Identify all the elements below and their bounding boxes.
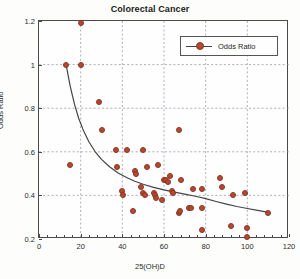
x-minor-tick xyxy=(222,235,223,237)
trend-curve xyxy=(66,65,268,213)
x-tick xyxy=(164,234,165,237)
x-minor-tick xyxy=(231,235,232,237)
data-point xyxy=(78,62,84,68)
y-tick-label: 0.6 xyxy=(7,147,35,156)
data-point xyxy=(113,147,119,153)
data-point xyxy=(219,184,225,190)
data-point xyxy=(124,147,130,153)
x-minor-tick xyxy=(239,235,240,237)
x-minor-tick xyxy=(172,235,173,237)
x-minor-tick xyxy=(147,235,148,237)
x-minor-tick xyxy=(139,235,140,237)
data-point xyxy=(153,195,159,201)
y-tick xyxy=(39,108,42,109)
x-minor-tick xyxy=(72,235,73,237)
legend-marker-icon xyxy=(186,41,212,51)
x-minor-tick xyxy=(264,235,265,237)
data-point xyxy=(199,186,205,192)
x-tick xyxy=(81,234,82,237)
data-point xyxy=(265,210,271,216)
y-tick xyxy=(39,152,42,153)
data-point xyxy=(63,62,69,68)
x-minor-tick xyxy=(256,235,257,237)
chart-legend[interactable]: Odds Ratio xyxy=(180,36,278,56)
x-tick xyxy=(206,234,207,237)
chart-figure: Colorectal Cancer 020406080100120 0.20.4… xyxy=(0,0,300,279)
x-tick xyxy=(289,234,290,237)
y-tick-label: 0.4 xyxy=(7,191,35,200)
x-minor-tick xyxy=(214,235,215,237)
data-point xyxy=(176,127,182,133)
x-tick xyxy=(122,234,123,237)
x-tick-label: 100 xyxy=(232,242,262,251)
y-tick-label: 0.8 xyxy=(7,104,35,113)
legend-label: Odds Ratio xyxy=(218,42,256,51)
y-tick xyxy=(39,65,42,66)
data-point xyxy=(130,208,136,214)
data-point xyxy=(140,147,146,153)
data-point xyxy=(178,177,184,183)
data-point xyxy=(190,186,196,192)
y-tick xyxy=(39,195,42,196)
data-point xyxy=(228,223,234,229)
x-tick-label: 120 xyxy=(274,242,300,251)
x-minor-tick xyxy=(189,235,190,237)
data-point xyxy=(155,162,161,168)
trend-line xyxy=(66,65,268,213)
x-minor-tick xyxy=(97,235,98,237)
chart-title: Colorectal Cancer xyxy=(0,4,300,14)
x-minor-tick xyxy=(197,235,198,237)
x-tick-label: 20 xyxy=(66,242,96,251)
y-tick-label: 1 xyxy=(7,60,35,69)
x-minor-tick xyxy=(89,235,90,237)
data-point xyxy=(159,197,165,203)
data-point xyxy=(199,227,205,233)
y-tick-label: 1.2 xyxy=(7,17,35,26)
data-point xyxy=(167,173,173,179)
data-point xyxy=(138,184,144,190)
x-minor-tick xyxy=(131,235,132,237)
x-minor-tick xyxy=(114,235,115,237)
x-minor-tick xyxy=(106,235,107,237)
x-tick-label: 60 xyxy=(149,242,179,251)
data-point xyxy=(133,171,139,177)
x-tick-label: 80 xyxy=(191,242,221,251)
x-minor-tick xyxy=(56,235,57,237)
x-minor-tick xyxy=(64,235,65,237)
x-axis-title: 25(OH)D xyxy=(0,262,300,271)
data-point xyxy=(99,127,105,133)
y-tick xyxy=(39,239,42,240)
x-minor-tick xyxy=(181,235,182,237)
x-minor-tick xyxy=(156,235,157,237)
y-tick xyxy=(39,21,42,22)
x-minor-tick xyxy=(281,235,282,237)
x-minor-tick xyxy=(272,235,273,237)
data-point xyxy=(78,20,84,26)
data-point xyxy=(177,208,183,214)
x-tick xyxy=(39,234,40,237)
y-axis-title: Odds Ratio xyxy=(0,91,5,129)
y-tick-label: 0.2 xyxy=(7,235,35,244)
x-minor-tick xyxy=(47,235,48,237)
x-tick-label: 40 xyxy=(107,242,137,251)
